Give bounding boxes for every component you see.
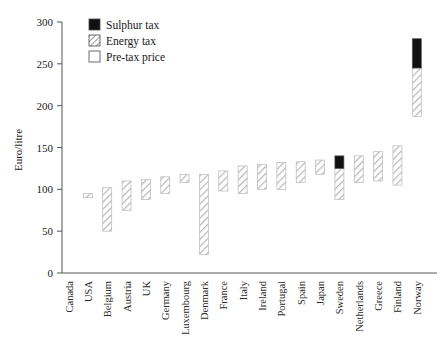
x-axis-category-label: Canada [64, 281, 75, 313]
bar-segment-sulphur-tax [412, 39, 421, 68]
y-axis: 050100150200250300 Euro/litre [12, 16, 437, 279]
legend-swatch-energy-tax [89, 35, 100, 46]
x-axis-category-label: Norway [412, 280, 423, 315]
x-axis-category-label: Netherlands [354, 281, 365, 332]
bar-segment-energy-tax [219, 171, 228, 191]
legend-label-sulphur-tax: Sulphur tax [106, 19, 160, 32]
bar-segment-energy-tax [412, 68, 421, 117]
x-axis-category-label: Ireland [257, 280, 268, 310]
x-axis-category-label: Finland [392, 280, 403, 313]
y-tick-label: 300 [37, 16, 54, 28]
bar-group [83, 39, 421, 255]
x-axis-category-label: USA [83, 281, 94, 302]
y-axis-title: Euro/litre [12, 129, 24, 171]
bar-segment-energy-tax [103, 188, 112, 232]
x-axis-category-label: UK [141, 281, 152, 297]
bar-segment-energy-tax [83, 194, 92, 198]
y-tick-label: 200 [37, 100, 54, 112]
bar-segment-energy-tax [258, 164, 267, 189]
bar-segment-energy-tax [141, 179, 150, 199]
x-axis-category-label: Belgium [102, 281, 113, 317]
x-axis-category-label: Germany [160, 280, 171, 320]
x-axis-category-label: Austria [122, 281, 133, 312]
legend-swatch-pre-tax-price [89, 51, 100, 62]
x-axis-category-label: Luxembourg [180, 280, 191, 335]
x-axis-category-label: Sweden [334, 280, 345, 314]
legend-label-energy-tax: Energy tax [106, 35, 156, 48]
x-axis-category-label: France [218, 281, 229, 310]
bar-segment-energy-tax [238, 166, 247, 194]
bar-segment-energy-tax [296, 162, 305, 183]
chart-container: 050100150200250300 Euro/litre CanadaUSAB… [0, 0, 442, 363]
y-tick-label: 150 [37, 142, 54, 154]
y-tick-label: 250 [37, 58, 54, 70]
x-axis-category-label: Italy [238, 280, 249, 300]
x-axis-category-label: Japan [315, 280, 326, 305]
x-axis-category-label: Greece [373, 281, 384, 311]
bar-segment-sulphur-tax [335, 156, 344, 169]
fuel-price-tax-chart: 050100150200250300 Euro/litre CanadaUSAB… [0, 0, 442, 363]
legend: Sulphur tax Energy tax Pre-tax price [89, 19, 165, 64]
bar-segment-energy-tax [161, 177, 170, 194]
bar-segment-energy-tax [199, 174, 208, 254]
x-axis-category-label: Portugal [276, 281, 287, 317]
category-label-group: CanadaUSABelgiumAustriaUKGermanyLuxembou… [64, 280, 423, 335]
bar-segment-energy-tax [393, 146, 402, 185]
bar-segment-energy-tax [316, 160, 325, 174]
y-tick-label: 50 [42, 225, 54, 237]
bar-segment-energy-tax [335, 168, 344, 199]
y-tick-group: 050100150200250300 [37, 16, 63, 279]
bar-segment-energy-tax [180, 174, 189, 182]
y-tick-label: 0 [48, 267, 54, 279]
x-axis-category-label: Spain [296, 280, 307, 305]
bar-segment-energy-tax [277, 163, 286, 190]
bar-segment-energy-tax [122, 181, 131, 210]
x-axis-category-label: Denmark [199, 280, 210, 320]
bar-segment-energy-tax [354, 156, 363, 183]
legend-swatch-sulphur-tax [89, 19, 100, 30]
legend-label-pre-tax-price: Pre-tax price [106, 51, 165, 64]
bar-segment-energy-tax [374, 152, 383, 181]
y-tick-label: 100 [37, 183, 54, 195]
